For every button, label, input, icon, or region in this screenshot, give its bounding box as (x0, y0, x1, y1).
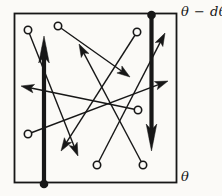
molecule-arrow-3-shaft (64, 32, 137, 147)
molecule-arrow-7-shaft (81, 49, 143, 165)
molecule-circle-6 (93, 161, 100, 168)
label-theta-minus-dtheta: θ − dθ (181, 5, 222, 19)
molecule-arrow-4-shaft (28, 83, 163, 134)
label-theta: θ (181, 170, 189, 184)
flux-arrow-down-right-plane-junction-dot (147, 11, 156, 20)
molecule-circle-5 (134, 106, 141, 113)
molecule-circle-1 (24, 26, 31, 33)
molecule-circle-2 (54, 22, 61, 29)
molecule-circle-7 (139, 161, 146, 168)
flux-arrow-up-left-plane-junction-dot (40, 180, 49, 189)
figure-stage: θ − dθ θ (0, 0, 222, 196)
molecule-arrow-2-head (117, 66, 130, 77)
molecule-circle-3 (133, 28, 140, 35)
molecule-arrow-6-head (155, 33, 165, 47)
molecule-arrow-3-head (61, 138, 72, 151)
diagram-canvas (0, 0, 222, 196)
molecule-circle-4 (24, 130, 31, 137)
molecule-arrow-1-shaft (28, 30, 76, 151)
